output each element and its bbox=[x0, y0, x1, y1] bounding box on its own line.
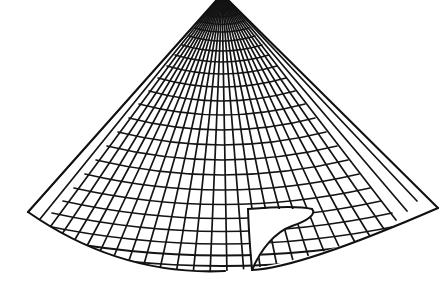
cone-mesh-diagram bbox=[0, 0, 443, 285]
figure-container: Conical wireframe mesh Line-drawing of a… bbox=[0, 0, 443, 285]
figure-background bbox=[0, 0, 443, 285]
